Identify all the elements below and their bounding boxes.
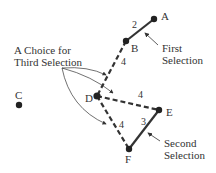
node-a [151,16,157,22]
second-selection-pointer [148,133,160,141]
weight-d-f: 4 [119,119,124,131]
third-choice-line1: A Choice for [14,44,82,56]
node-d [93,92,100,99]
node-label-e: E [166,106,173,118]
second-selection-line1: Second [164,137,205,149]
node-label-a: A [161,10,169,22]
second-selection-label: Second Selection [164,137,205,161]
node-label-d: D [85,92,93,104]
edge-d-e [97,96,159,110]
first-selection-line2: Selection [162,54,203,66]
node-c [16,102,22,108]
node-label-c: C [15,89,22,101]
first-selection-pointer [145,33,158,45]
node-e [156,107,162,113]
node-label-b: B [131,42,138,54]
third-selection-choice-label: A Choice for Third Selection [14,44,82,68]
first-selection-line1: First [162,42,203,54]
weight-a-b: 2 [132,19,137,31]
weight-d-e: 4 [138,89,143,101]
node-label-f: F [125,153,131,165]
first-selection-label: First Selection [162,42,203,66]
node-f [126,146,132,152]
third-choice-line2: Third Selection [14,56,82,68]
choice-arrow-b-d [62,68,106,75]
weight-b-d: 4 [121,56,126,68]
node-b [123,38,129,44]
edge-b-d [97,41,126,96]
weight-e-f: 3 [141,116,146,128]
second-selection-line2: Selection [164,149,205,161]
edge-d-f [97,96,129,149]
